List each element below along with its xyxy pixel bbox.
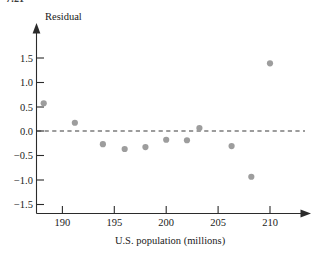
y-tick-label-neg0.5: −0.5	[14, 150, 33, 161]
x-axis-title: U.S. population (millions)	[115, 235, 226, 247]
x-tick-label-200: 200	[158, 217, 174, 228]
y-tick-label-neg1.5: −1.5	[14, 199, 33, 210]
data-point	[72, 120, 78, 126]
data-point	[184, 137, 190, 143]
data-point	[228, 143, 234, 149]
x-tick-labels: 190 195 200 205 210	[55, 217, 278, 228]
y-tick-label-neg1.0: −1.0	[14, 175, 33, 186]
residual-plot-figure: 7.21 1.5 1.0 0.5 0.0 −0.5	[0, 0, 321, 254]
y-tick-labels: 1.5 1.0 0.5 0.0 −0.5 −1.0 −1.5	[14, 53, 33, 211]
y-axis-arrowhead	[33, 23, 41, 34]
scatter-plot-canvas: 1.5 1.0 0.5 0.0 −0.5 −1.0 −1.5 190 195 2…	[0, 0, 321, 254]
x-tick-marks	[62, 206, 270, 214]
x-tick-label-190: 190	[55, 217, 71, 228]
y-tick-label-1.0: 1.0	[20, 77, 33, 88]
x-tick-label-195: 195	[106, 217, 122, 228]
y-tick-label-1.5: 1.5	[20, 53, 33, 64]
data-point	[122, 146, 128, 152]
y-tick-label-0.0: 0.0	[20, 126, 33, 137]
data-points-layer	[41, 60, 273, 180]
data-point	[267, 60, 273, 66]
data-point	[163, 137, 169, 143]
data-point	[100, 141, 106, 147]
data-point	[142, 144, 148, 150]
x-axis-arrowhead	[301, 210, 312, 218]
y-tick-label-0.5: 0.5	[20, 102, 33, 113]
data-point	[196, 125, 202, 131]
data-point	[41, 100, 47, 106]
x-tick-label-205: 205	[210, 217, 226, 228]
y-axis-title: Residual	[45, 11, 82, 22]
data-point	[248, 174, 254, 180]
x-tick-label-210: 210	[262, 217, 278, 228]
y-axis-group	[33, 23, 41, 214]
